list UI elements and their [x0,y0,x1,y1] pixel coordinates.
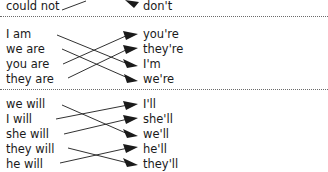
exercise-group-be-verbs: I am we are you are they are you're they… [0,26,328,89]
exercise-group-will-verbs: we will I will she will they will he wil… [0,96,328,172]
arrowhead-icon [123,158,138,167]
left-term[interactable]: could not [6,0,60,15]
arrowhead-icon [123,45,138,54]
divider-top [0,16,328,17]
left-term[interactable]: they are [6,71,54,88]
right-term[interactable]: we're [143,71,174,88]
arrowhead-icon [123,31,138,40]
left-term[interactable]: he will [6,156,43,172]
arrowhead-icon [123,144,138,153]
divider-middle [0,89,328,90]
arrowhead-icon [124,74,138,83]
matching-worksheet: could not don't I am we are you are they… [0,0,328,172]
arrowhead-icon [123,59,138,68]
arrowhead-icon [123,101,138,110]
arrowhead-icon [123,129,138,138]
exercise-group-partial-top: could not don't [0,0,328,16]
right-term[interactable]: don't [143,0,172,15]
arrowhead-icon [123,115,138,124]
right-term[interactable]: they'll [143,156,178,172]
arrowhead-icon [125,0,139,8]
